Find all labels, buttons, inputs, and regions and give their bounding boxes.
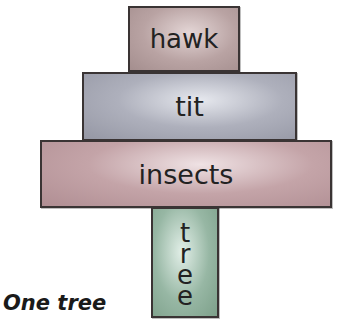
level-label-tit: tit: [175, 91, 204, 122]
level-label-tree-letter: e: [177, 286, 193, 307]
pyramid-level-tree: t r e e: [151, 207, 219, 318]
level-label-hawk: hawk: [150, 24, 219, 54]
pyramid-level-tit: tit: [82, 72, 297, 141]
pyramid-level-insects: insects: [40, 140, 332, 208]
diagram-caption: One tree: [3, 291, 106, 315]
pyramid-level-hawk: hawk: [128, 6, 240, 72]
level-label-insects: insects: [139, 159, 234, 190]
